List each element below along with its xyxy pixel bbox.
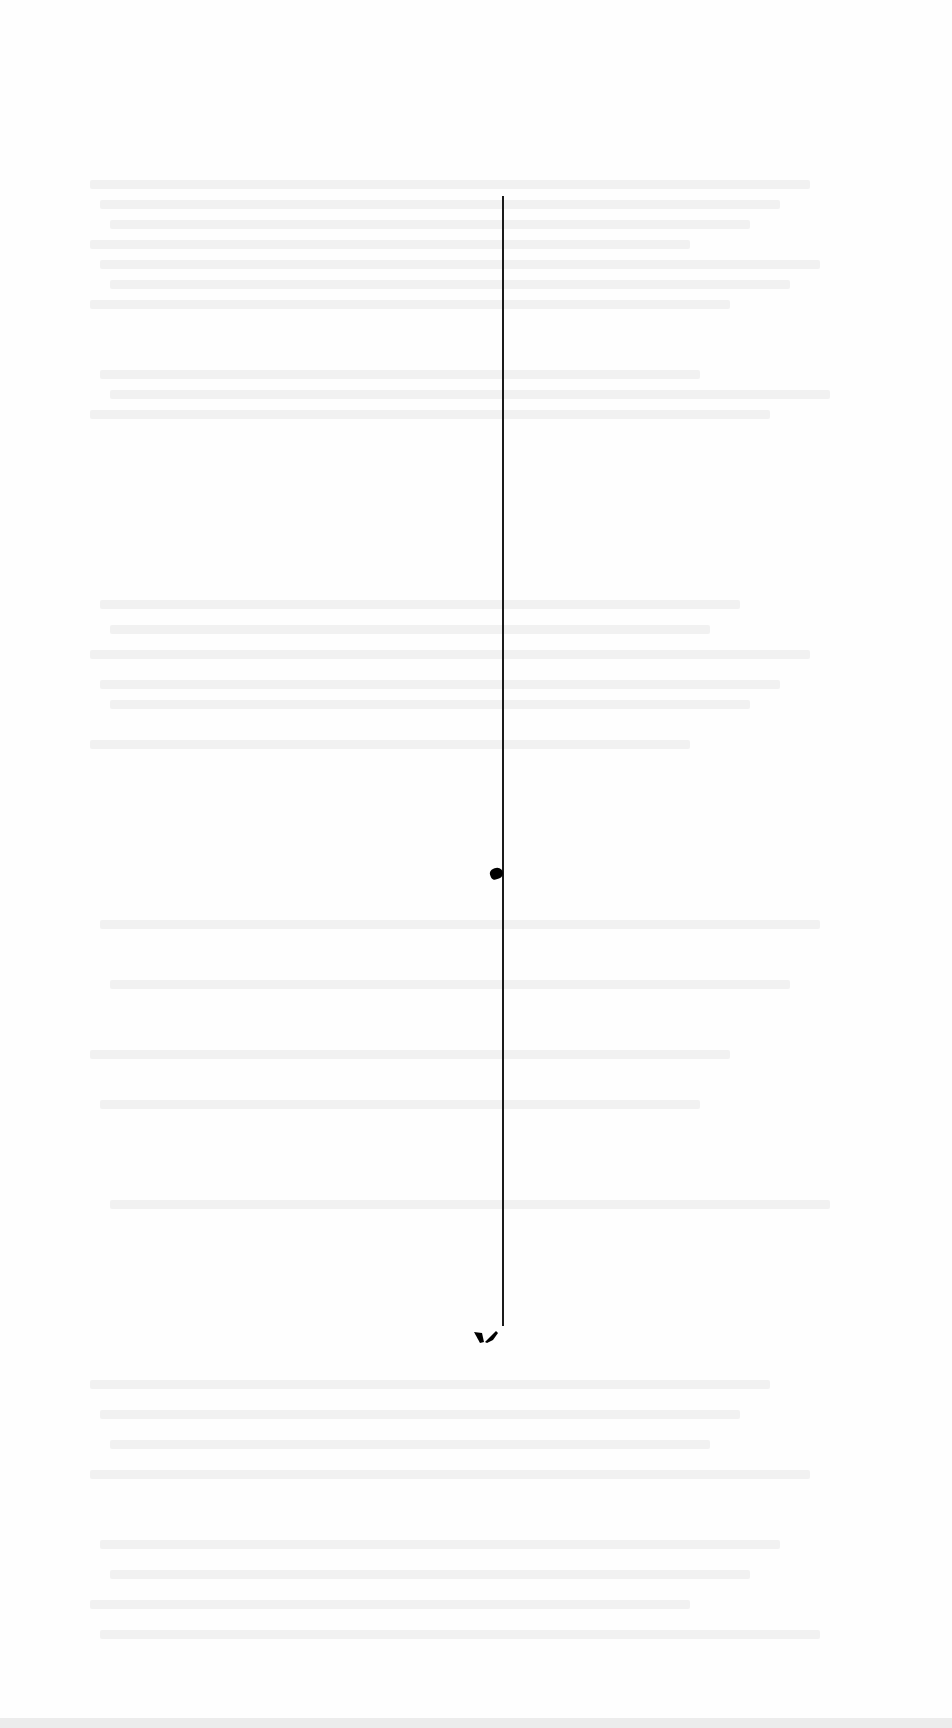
bleed-line [110,390,830,399]
bleed-line [110,700,750,709]
bleed-line [90,650,810,659]
vertical-rule [502,196,504,1326]
page-edge-shadow [0,1718,952,1728]
bleed-line [110,280,790,289]
bleed-line [100,1630,820,1639]
bleed-line [100,920,820,929]
bleed-line [110,220,750,229]
bleed-line [110,980,790,989]
bleed-line [110,1440,710,1449]
ink-mark-icon [474,1330,498,1344]
bleed-line [90,300,730,309]
bleed-line [90,240,690,249]
bleed-line [100,200,780,209]
bleed-line [110,1570,750,1579]
bleed-line [100,600,740,609]
bleed-line [100,370,700,379]
bleed-line [90,180,810,189]
scanned-page: Blank scanned page with faint illegible … [0,0,952,1728]
bleed-line [100,680,780,689]
bleed-line [100,1540,780,1549]
bleed-line [110,625,710,634]
bleed-line [110,1200,830,1209]
bleed-line [90,740,690,749]
bleed-line [90,1470,810,1479]
bleed-line [90,1600,690,1609]
bleed-line [100,260,820,269]
bleed-line [90,1050,730,1059]
bleed-line [90,410,770,419]
bleed-line [100,1410,740,1419]
bleed-line [100,1100,700,1109]
bleed-line [90,1380,770,1389]
